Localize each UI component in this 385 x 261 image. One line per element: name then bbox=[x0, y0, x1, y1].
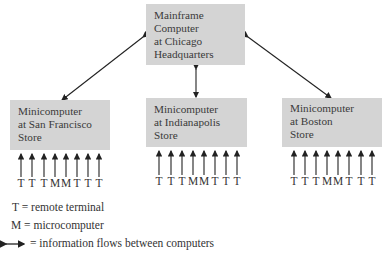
terminal-label: T bbox=[17, 177, 24, 189]
terminal-label: T bbox=[73, 177, 80, 189]
terminal-label: T bbox=[28, 177, 35, 189]
terminal-label: T bbox=[290, 175, 297, 187]
terminal-label: T bbox=[211, 175, 218, 187]
terminal-label: T bbox=[95, 177, 102, 189]
terminal-label: T bbox=[84, 177, 91, 189]
box-label-line: Store bbox=[154, 129, 247, 142]
box-label-line: Minicomputer bbox=[154, 103, 247, 116]
terminal-label: T bbox=[178, 175, 185, 187]
legend-information-flow: = information flows between computers bbox=[30, 237, 214, 249]
minicomputer-boston-box: Minicomputer at Boston Store bbox=[282, 98, 382, 147]
terminal-label: M bbox=[199, 175, 209, 187]
minicomputer-sanfrancisco-box: Minicomputer at San Francisco Store bbox=[10, 100, 110, 150]
legend-microcomputer: M = microcomputer bbox=[11, 219, 104, 231]
terminal-label: T bbox=[233, 175, 240, 187]
flow-arrow-chicago-sanfrancisco bbox=[62, 37, 143, 100]
minicomputer-indianapolis-box: Minicomputer at Indianapolis Store bbox=[146, 98, 247, 147]
terminal-label: T bbox=[368, 175, 375, 187]
flow-arrow-chicago-boston bbox=[248, 37, 331, 98]
terminal-label: T bbox=[40, 177, 47, 189]
mainframe-chicago-box: Mainframe Computer at Chicago Headquarte… bbox=[146, 4, 245, 65]
box-label-line: Computer bbox=[154, 22, 245, 35]
box-label-line: Store bbox=[290, 128, 382, 141]
terminal-arrows-indianapolis bbox=[159, 151, 237, 175]
box-label-line: Mainframe bbox=[154, 9, 245, 22]
legend-terminal: T = remote terminal bbox=[12, 201, 104, 213]
terminal-arrows-sanfrancisco bbox=[21, 154, 99, 177]
box-label-line: at Indianapolis bbox=[154, 116, 247, 129]
terminal-label: M bbox=[188, 175, 198, 187]
terminal-label: T bbox=[312, 175, 319, 187]
terminal-label: M bbox=[61, 177, 71, 189]
box-label-line: Headquarters bbox=[154, 48, 245, 61]
terminal-arrows-boston bbox=[294, 151, 372, 175]
terminal-label: M bbox=[50, 177, 60, 189]
terminal-label: T bbox=[357, 175, 364, 187]
box-label-line: Minicomputer bbox=[18, 105, 110, 118]
box-label-line: Store bbox=[18, 131, 110, 144]
terminal-label: M bbox=[333, 175, 343, 187]
box-label-line: Minicomputer bbox=[290, 102, 382, 115]
terminal-label: T bbox=[345, 175, 352, 187]
terminal-label: M bbox=[322, 175, 332, 187]
box-label-line: at San Francisco bbox=[18, 118, 110, 131]
terminal-label: T bbox=[301, 175, 308, 187]
box-label-line: at Chicago bbox=[154, 35, 245, 48]
terminal-label: T bbox=[167, 175, 174, 187]
box-label-line: at Boston bbox=[290, 115, 382, 128]
terminal-label: T bbox=[222, 175, 229, 187]
terminal-label: T bbox=[155, 175, 162, 187]
